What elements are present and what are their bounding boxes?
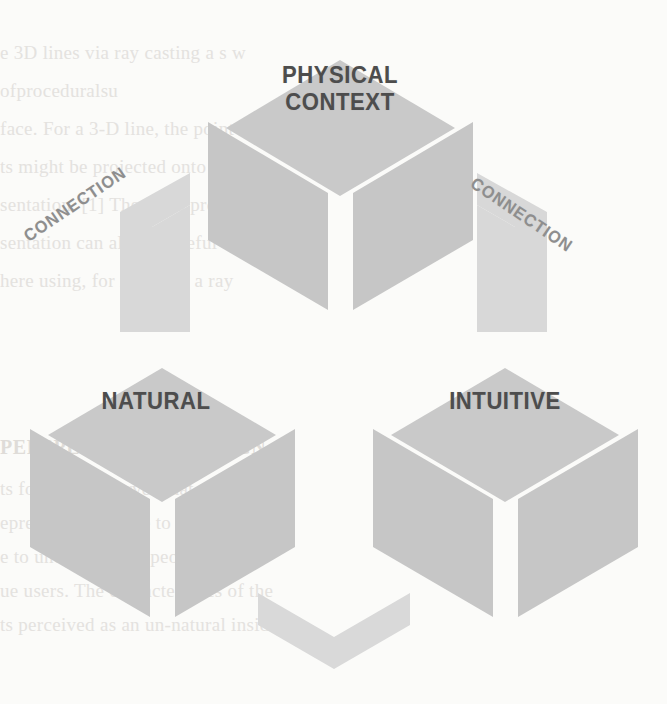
cube-label-natural: NATURAL [75,388,237,415]
cube-label-physical-context: PHYSICAL CONTEXT [239,62,441,116]
cube-label-intuitive: INTUITIVE [419,388,590,415]
connector-bottom [258,593,410,669]
connector-left [120,173,190,332]
figure-canvas: e 3D lines via ray casting a s w ofproce… [0,0,667,704]
